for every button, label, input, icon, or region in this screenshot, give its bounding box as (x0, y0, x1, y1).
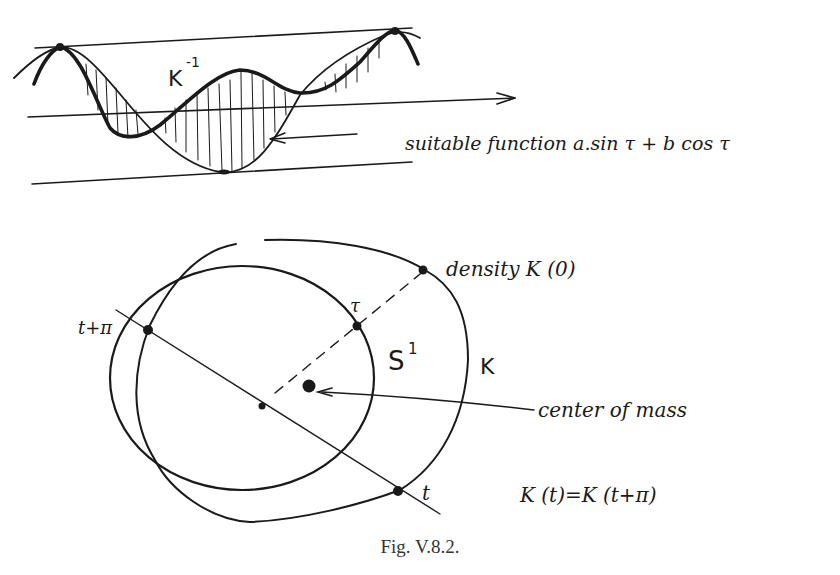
tau-label: τ (350, 295, 361, 316)
center-of-mass-label: center of mass (538, 398, 687, 422)
t-plus-pi-label: t+π (78, 317, 113, 338)
circle-s1 (110, 266, 374, 490)
periodicity-equation: K (t)=K (t+π) (519, 483, 657, 507)
diameter-line (116, 310, 440, 514)
suitable-function-curve (14, 32, 420, 172)
k-inverse-exponent: -1 (186, 54, 200, 70)
top-panel (14, 27, 515, 184)
point-density (419, 266, 428, 275)
point-t (393, 486, 403, 496)
suitable-function-annotation: suitable function a.sin τ + b cos τ (405, 132, 730, 154)
figure-diagram: K -1 suitable function a.sin τ + b cos τ… (0, 0, 840, 575)
left-touch-point (56, 43, 64, 51)
point-tau (353, 322, 362, 331)
center-of-mass-arrow-line (322, 392, 534, 410)
k-inverse-label: K (168, 66, 183, 91)
t-label: t (422, 481, 431, 505)
s1-label: S (388, 346, 405, 376)
point-center-of-mass (303, 380, 316, 393)
bottom-panel (110, 240, 534, 522)
density-label: density K (0) (446, 257, 576, 281)
right-touch-point (391, 27, 399, 35)
bottom-points (143, 266, 428, 497)
outer-k-label: K (480, 354, 495, 379)
point-t-plus-pi (143, 325, 153, 335)
upper-guide-line (35, 28, 412, 48)
bottom-touch-point (218, 170, 230, 175)
pointer-arrow-line (272, 134, 357, 139)
s1-exponent: 1 (408, 340, 418, 358)
point-center (259, 403, 266, 410)
figure-caption: Fig. V.8.2. (0, 536, 840, 558)
